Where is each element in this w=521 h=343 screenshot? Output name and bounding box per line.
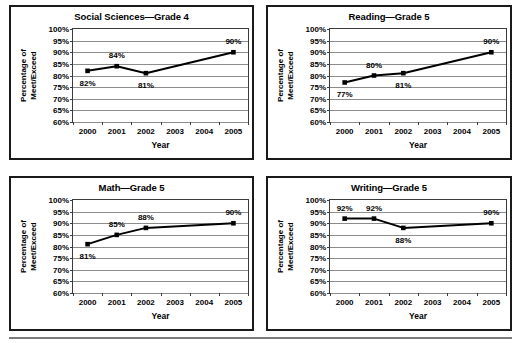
x-axis-title: Year — [329, 311, 507, 321]
data-point-label: 81% — [138, 81, 154, 90]
y-axis-title-line1: Percentage of — [276, 28, 286, 123]
y-axis-tick-label: 95% — [310, 207, 326, 216]
data-point-label: 90% — [483, 37, 499, 46]
y-axis-title: Percentage of Meet/Exceed — [19, 199, 41, 294]
x-axis-tick — [248, 293, 249, 296]
y-axis-title: Percentage of Meet/Exceed — [276, 28, 298, 123]
y-axis-title-line2: Meet/Exceed — [29, 28, 39, 123]
x-axis-tick — [248, 122, 249, 125]
x-axis-tick-label: 2002 — [137, 298, 155, 307]
y-axis-tick-label: 80% — [310, 71, 326, 80]
data-point-marker — [114, 64, 119, 69]
y-axis-tick-label: 90% — [310, 48, 326, 57]
x-axis-tick-label: 2000 — [336, 298, 354, 307]
y-axis-title-line1: Percentage of — [19, 199, 29, 294]
data-point-label: 90% — [225, 208, 241, 217]
y-axis-title-line1: Percentage of — [276, 199, 286, 294]
x-axis-tick — [73, 122, 74, 125]
x-axis-tick-label: 2002 — [394, 298, 412, 307]
y-axis-title: Percentage of Meet/Exceed — [276, 199, 298, 294]
data-point-marker — [144, 226, 149, 231]
y-axis-tick-label: 65% — [310, 106, 326, 115]
y-axis-tick-label: 100% — [49, 196, 69, 205]
y-axis-tick-label: 85% — [310, 59, 326, 68]
x-axis-tick-label: 2001 — [365, 298, 383, 307]
data-series-line — [330, 200, 506, 293]
data-series-line — [330, 29, 506, 122]
data-point-marker — [231, 50, 236, 55]
bottom-divider — [9, 337, 512, 339]
x-axis-tick-label: 2002 — [394, 127, 412, 136]
chart-grid: Social Sciences—Grade 4 Percentage of Me… — [0, 0, 521, 343]
data-point-label: 88% — [138, 212, 154, 221]
y-axis-tick-label: 95% — [310, 36, 326, 45]
y-axis-tick-label: 70% — [310, 265, 326, 274]
x-axis-tick-label: 2001 — [108, 298, 126, 307]
x-axis-tick-label: 2000 — [79, 127, 97, 136]
data-point-label: 92% — [337, 203, 353, 212]
data-point-marker — [85, 242, 90, 247]
x-axis-tick-label: 2003 — [424, 298, 442, 307]
y-axis-tick-label: 80% — [310, 242, 326, 251]
chart-title: Math—Grade 5 — [11, 182, 252, 193]
x-axis-tick-label: 2004 — [453, 298, 471, 307]
x-axis-tick — [102, 122, 103, 125]
y-axis-tick-label: 60% — [310, 289, 326, 298]
y-axis-title: Percentage of Meet/Exceed — [19, 28, 41, 123]
data-point-marker — [489, 221, 494, 226]
x-axis-tick — [359, 122, 360, 125]
x-axis-tick-label: 2004 — [453, 127, 471, 136]
x-axis-tick-label: 2004 — [195, 127, 213, 136]
y-axis-tick-label: 90% — [53, 219, 69, 228]
data-point-marker — [372, 216, 377, 221]
data-point-marker — [489, 50, 494, 55]
x-axis-tick-label: 2005 — [225, 127, 243, 136]
plot-area: 100%95%90%85%80%75%70%65%60%200020012002… — [72, 28, 249, 123]
plot-area: 100%95%90%85%80%75%70%65%60%200020012002… — [329, 199, 507, 294]
data-point-label: 85% — [109, 219, 125, 228]
data-point-marker — [401, 71, 406, 76]
chart-title: Writing—Grade 5 — [268, 182, 510, 193]
y-axis-tick-label: 75% — [53, 254, 69, 263]
chart-panel-reading: Reading—Grade 5 Percentage of Meet/Excee… — [266, 5, 512, 160]
x-axis-tick — [447, 293, 448, 296]
x-axis-tick — [389, 122, 390, 125]
data-point-label: 80% — [366, 60, 382, 69]
y-axis-tick-label: 65% — [53, 106, 69, 115]
y-axis-tick-label: 85% — [53, 59, 69, 68]
x-axis-tick — [506, 293, 507, 296]
data-point-marker — [144, 71, 149, 76]
x-axis-tick-label: 2003 — [166, 127, 184, 136]
y-axis-tick-label: 95% — [53, 36, 69, 45]
data-point-label: 90% — [225, 37, 241, 46]
x-axis-tick-label: 2005 — [482, 298, 500, 307]
x-axis-tick-label: 2003 — [424, 127, 442, 136]
x-axis-tick-label: 2002 — [137, 127, 155, 136]
data-point-label: 77% — [337, 90, 353, 99]
y-axis-tick-label: 65% — [310, 277, 326, 286]
y-axis-tick-label: 80% — [53, 71, 69, 80]
x-axis-tick — [219, 293, 220, 296]
x-axis-tick — [477, 293, 478, 296]
chart-panel-social-sciences: Social Sciences—Grade 4 Percentage of Me… — [9, 5, 254, 160]
y-axis-title-line1: Percentage of — [19, 28, 29, 123]
y-axis-title-line2: Meet/Exceed — [29, 199, 39, 294]
plot-area: 100%95%90%85%80%75%70%65%60%200020012002… — [72, 199, 249, 294]
chart-title: Social Sciences—Grade 4 — [11, 11, 252, 22]
x-axis-tick-label: 2004 — [195, 298, 213, 307]
x-axis-tick — [418, 122, 419, 125]
x-axis-tick-label: 2001 — [108, 127, 126, 136]
x-axis-tick — [330, 122, 331, 125]
y-axis-tick-label: 65% — [53, 277, 69, 286]
x-axis-tick — [73, 293, 74, 296]
y-axis-tick-label: 100% — [306, 25, 326, 34]
data-point-marker — [342, 216, 347, 221]
y-axis-tick-label: 70% — [53, 94, 69, 103]
x-axis-tick — [418, 293, 419, 296]
x-axis-tick — [131, 122, 132, 125]
x-axis-tick-label: 2000 — [336, 127, 354, 136]
chart-panel-math: Math—Grade 5 Percentage of Meet/Exceed 1… — [9, 176, 254, 331]
x-axis-tick-label: 2003 — [166, 298, 184, 307]
chart-panel-writing: Writing—Grade 5 Percentage of Meet/Excee… — [266, 176, 512, 331]
x-axis-tick-label: 2001 — [365, 127, 383, 136]
